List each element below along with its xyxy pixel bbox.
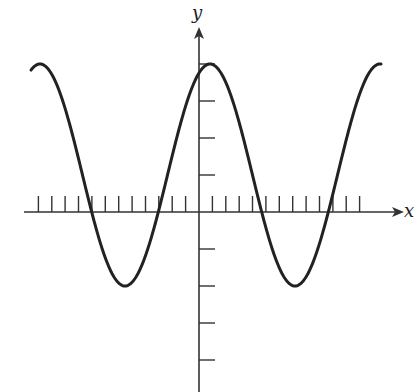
x-axis-label: x: [404, 200, 414, 221]
cosine-graph: [0, 0, 419, 392]
y-axis-label: y: [192, 2, 202, 23]
